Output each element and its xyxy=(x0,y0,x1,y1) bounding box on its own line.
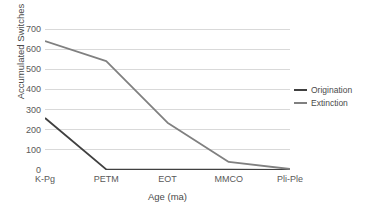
y-tick-label: 600 xyxy=(26,45,41,54)
y-tick-label: 100 xyxy=(26,145,41,154)
chart-legend: OriginationExtinction xyxy=(294,84,368,110)
plot-area xyxy=(45,29,290,170)
legend-item-extinction[interactable]: Extinction xyxy=(294,97,368,108)
y-axis-tick-labels: 0100200300400500600700 xyxy=(0,29,41,170)
y-tick-label: 200 xyxy=(26,125,41,134)
x-axis-title: Age (ma) xyxy=(45,191,290,202)
line-chart: Accumulated Switches 0100200300400500600… xyxy=(0,0,368,216)
x-axis-tick-labels: K-PgPETMEOTMMCOPli-Ple xyxy=(45,174,290,188)
series-line-origination xyxy=(45,118,290,170)
x-tick-label: Pli-Ple xyxy=(277,174,303,184)
y-tick-label: 700 xyxy=(26,25,41,34)
legend-line-swatch-icon xyxy=(294,102,307,104)
x-tick-label: EOT xyxy=(158,174,177,184)
x-tick-label: K-Pg xyxy=(35,174,55,184)
legend-label: Origination xyxy=(311,85,352,95)
y-tick-label: 300 xyxy=(26,105,41,114)
legend-line-swatch-icon xyxy=(294,89,307,91)
legend-item-origination[interactable]: Origination xyxy=(294,84,368,95)
y-tick-label: 400 xyxy=(26,85,41,94)
legend-label: Extinction xyxy=(311,98,348,108)
x-tick-label: MMCO xyxy=(215,174,244,184)
series-lines xyxy=(45,29,290,170)
x-tick-label: PETM xyxy=(94,174,119,184)
y-tick-label: 500 xyxy=(26,65,41,74)
